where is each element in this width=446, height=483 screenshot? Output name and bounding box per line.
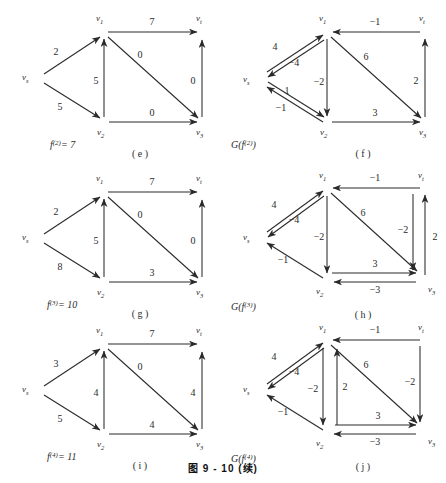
edge-label-vt-v1: −1: [370, 16, 381, 27]
edge-label-vs-v2: 5: [58, 101, 63, 112]
edge-label-v2-v1: 2: [343, 381, 348, 392]
panel-j-graph: vs v1 v2 vt v3 4 −4 −1 −2 2 −1 6 3 −3 −2…: [223, 312, 446, 472]
edge-v1-v3: [331, 37, 421, 118]
panel-e-letter: ( e ): [132, 148, 148, 160]
node-vs: vs: [22, 232, 29, 244]
edge-vs-v1: [267, 191, 323, 232]
panel-e-graph: vs v1 v2 vt v3 2 5 5 7 0 0 0 f(2)= 7 ( e…: [0, 0, 223, 160]
edge-v2-vs: [267, 243, 323, 278]
edge-label-vs-v1: 4: [273, 41, 278, 52]
edge-label-v2-v3: 0: [150, 107, 155, 118]
panel-e: vs v1 v2 vt v3 2 5 5 7 0 0 0 f(2)= 7 ( e…: [0, 0, 223, 160]
edge-label-v1-vt: 7: [150, 328, 155, 339]
edge-label-v1-vs: −4: [289, 366, 300, 377]
node-v3: v3: [428, 436, 436, 448]
edge-label-v1-v2: −2: [314, 231, 325, 242]
edge-v1-v3: [108, 349, 198, 430]
edge-label-vs-v1: 3: [54, 358, 59, 369]
panel-h: vs v1 v2 vt v3 4 −4 −1 −2 −1 6 3 −3 −2 2…: [223, 160, 446, 320]
edge-label-v2-v3: 3: [150, 267, 155, 278]
node-vt: vt: [196, 173, 202, 185]
node-v2: v2: [320, 127, 328, 139]
edge-labels: 4 −4 −1 −2 2 −1 6 3 −3 −2: [272, 324, 416, 447]
edge-label-vs-v2: 8: [58, 261, 63, 272]
edge-label-v2-v3: 3: [373, 107, 378, 118]
panel-f-residual-label: G(f(2)): [231, 139, 257, 151]
edge-label-v2-vs: −1: [276, 102, 287, 113]
node-v1: v1: [319, 170, 326, 182]
edge-label-v3-v2: −3: [370, 284, 381, 295]
edge-label-v2-v1: 5: [94, 235, 99, 246]
panel-f-letter: ( f ): [356, 148, 371, 160]
node-v3: v3: [196, 127, 204, 139]
node-vs: vs: [243, 384, 250, 396]
node-v1: v1: [319, 322, 326, 334]
edge-label-v2-v3: 3: [373, 258, 378, 269]
panel-e-flow-value: f(2)= 7: [50, 139, 76, 150]
node-vs: vs: [243, 74, 250, 86]
figure-caption: 图 9 - 10 (续): [0, 460, 446, 475]
edge-label-v3-vt: 2: [433, 231, 438, 242]
node-vt: vt: [196, 325, 202, 337]
node-v2: v2: [316, 438, 324, 450]
node-v1: v1: [319, 13, 326, 25]
edge-label-v2-v1: 4: [94, 387, 99, 398]
edge-label-v1-vs: −4: [289, 214, 300, 225]
edge-label-v2-vs: −1: [278, 254, 289, 265]
node-v2: v2: [97, 127, 105, 139]
panel-f-graph: vs v1 v2 vt v3 4 −4 1 −1 −2 −1 6 3 2 G(f…: [223, 0, 446, 160]
edge-v1-v3: [108, 197, 198, 278]
figure-9-10-continued: vs v1 v2 vt v3 2 5 5 7 0 0 0 f(2)= 7 ( e…: [0, 0, 446, 483]
edge-label-v1-v2: −2: [314, 76, 325, 87]
node-v3: v3: [419, 127, 427, 139]
edge-label-v1-v3: 0: [138, 209, 143, 220]
edge-vs-v1: [44, 37, 100, 74]
node-v2: v2: [97, 439, 105, 451]
panel-i: vs v1 v2 vt v3 3 5 4 7 0 4 4 f(4)= 11 ( …: [0, 312, 223, 472]
edge-vs-v2: [44, 243, 100, 278]
edge-label-v2-v3: 3: [376, 410, 381, 421]
edge-label-v1-v3: 0: [138, 361, 143, 372]
edge-label-vs-v1: 2: [54, 46, 59, 57]
edge-label-v3-vt: 0: [191, 75, 196, 86]
panel-g-flow-value: f(3)= 10: [47, 299, 77, 310]
panel-g: vs v1 v2 vt v3 2 8 5 7 0 3 0 f(3)= 10 ( …: [0, 160, 223, 320]
edge-label-v1-v2: −2: [308, 383, 319, 394]
node-vs: vs: [243, 232, 250, 244]
edge-label-v3-v2: −3: [370, 436, 381, 447]
edge-label-v1-v3: 6: [364, 51, 369, 62]
node-v1: v1: [96, 173, 103, 185]
edge-vs-v1: [44, 197, 100, 234]
edge-label-vt-v1: −1: [370, 324, 381, 335]
node-vs: vs: [22, 72, 29, 84]
panel-h-graph: vs v1 v2 vt v3 4 −4 −1 −2 −1 6 3 −3 −2 2…: [223, 160, 446, 320]
edge-label-vs-v1: 4: [272, 199, 277, 210]
edge-label-v2-v1: 5: [94, 75, 99, 86]
panel-f: vs v1 v2 vt v3 4 −4 1 −1 −2 −1 6 3 2 G(f…: [223, 0, 446, 160]
node-v2: v2: [97, 287, 105, 299]
node-v2: v2: [316, 286, 324, 298]
edge-vs-v2: [44, 395, 100, 430]
node-vt: vt: [418, 322, 424, 334]
edge-label-vt-v1: −1: [370, 172, 381, 183]
edge-vs-v1: [267, 343, 323, 384]
node-v3: v3: [428, 284, 436, 296]
node-vs: vs: [22, 384, 29, 396]
edge-label-v1-vt: 7: [150, 16, 155, 27]
panel-j: vs v1 v2 vt v3 4 −4 −1 −2 2 −1 6 3 −3 −2…: [223, 312, 446, 472]
edge-label-v3-vt: 2: [414, 75, 419, 86]
edge-label-vs-v1: 2: [54, 206, 59, 217]
node-v3: v3: [196, 439, 204, 451]
edge-label-vs-v2: 1: [285, 85, 290, 96]
edge-label-vs-v2: 5: [58, 413, 63, 424]
edge-label-v1-v3: 0: [138, 49, 143, 60]
edge-label-v1-vt: 7: [150, 176, 155, 187]
edge-label-v3-vt: 4: [191, 387, 196, 398]
edge-label-v1-v3: 6: [361, 207, 366, 218]
edge-v2-vs: [267, 395, 323, 430]
node-v1: v1: [96, 13, 103, 25]
node-vt: vt: [418, 170, 424, 182]
panel-i-graph: vs v1 v2 vt v3 3 5 4 7 0 4 4 f(4)= 11 ( …: [0, 312, 223, 472]
edge-label-v2-v3: 4: [150, 419, 155, 430]
edge-label-v1-v3: 6: [364, 359, 369, 370]
